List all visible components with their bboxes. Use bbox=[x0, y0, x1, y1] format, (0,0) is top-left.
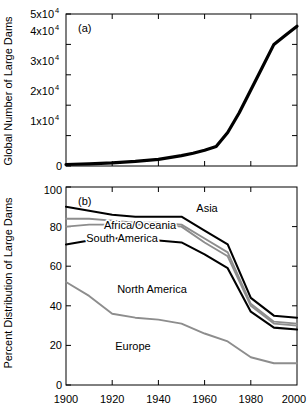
ytick-a-2-exp: 4 bbox=[55, 83, 59, 92]
region-label-asia: Asia bbox=[196, 202, 218, 214]
ytick-a-5: 5x10 bbox=[30, 8, 54, 20]
panel-b-ylabel: Percent Distribution of Large Dams bbox=[2, 197, 14, 369]
panel-b-svg: Percent Distribution of Large Dams 0 20 … bbox=[0, 182, 307, 411]
ytick-b-4: 80 bbox=[50, 221, 62, 233]
region-label-south-america: South America bbox=[86, 232, 158, 244]
panel-a-ylabel: Global Number of Large Dams bbox=[2, 16, 14, 166]
region-label-north-america: North America bbox=[117, 283, 188, 295]
xtick-b-1: 1920 bbox=[100, 393, 124, 405]
ytick-a-4: 4x10 bbox=[30, 25, 54, 37]
panel-a-svg: Global Number of Large Dams 0 1x10 4 2x1… bbox=[0, 0, 307, 182]
panel-b-ytick-labels: 0 20 40 60 80 100 bbox=[44, 184, 62, 391]
panel-a-ytick-labels: 0 1x10 4 2x10 4 3x10 4 4x10 4 5x10 4 bbox=[30, 6, 62, 172]
ytick-a-1-exp: 4 bbox=[55, 113, 59, 122]
panel-a-tag: (a) bbox=[78, 22, 91, 34]
ytick-b-1: 20 bbox=[50, 339, 62, 351]
xtick-b-5: 2000 bbox=[282, 393, 306, 405]
xtick-b-4: 1980 bbox=[239, 393, 263, 405]
ytick-b-3: 60 bbox=[50, 260, 62, 272]
ytick-b-0: 0 bbox=[56, 379, 62, 391]
panel-b-xtick-labels: 1900 1920 1940 1960 1980 2000 bbox=[54, 393, 306, 405]
dam-count-curve bbox=[66, 26, 297, 164]
xtick-b-3: 1960 bbox=[192, 393, 216, 405]
panel-a-yticks bbox=[66, 14, 297, 166]
panel-b-tag: (b) bbox=[78, 195, 91, 207]
panel-b-region-labels: Asia Africa/Oceania South America North … bbox=[86, 202, 218, 352]
panel-a-xticks bbox=[112, 14, 251, 166]
ytick-a-3: 3x10 bbox=[30, 55, 54, 67]
xtick-b-2: 1940 bbox=[146, 393, 170, 405]
region-label-europe: Europe bbox=[115, 340, 150, 352]
ytick-a-1: 1x10 bbox=[30, 115, 54, 127]
panel-b: Percent Distribution of Large Dams 0 20 … bbox=[0, 182, 307, 411]
figure-container: Global Number of Large Dams 0 1x10 4 2x1… bbox=[0, 0, 307, 411]
ytick-a-5-exp: 4 bbox=[55, 6, 59, 15]
region-label-africa-oceania: Africa/Oceania bbox=[104, 219, 177, 231]
panel-a: Global Number of Large Dams 0 1x10 4 2x1… bbox=[0, 0, 307, 182]
ytick-b-2: 40 bbox=[50, 300, 62, 312]
xtick-b-0: 1900 bbox=[54, 393, 78, 405]
ytick-a-2: 2x10 bbox=[30, 85, 54, 97]
asia-boundary-curve bbox=[66, 207, 297, 318]
ytick-a-3-exp: 4 bbox=[55, 53, 59, 62]
ytick-a-0: 0 bbox=[56, 160, 62, 172]
panel-a-frame bbox=[66, 14, 297, 166]
ytick-a-4-exp: 4 bbox=[55, 23, 59, 32]
ytick-b-5: 100 bbox=[44, 184, 62, 196]
